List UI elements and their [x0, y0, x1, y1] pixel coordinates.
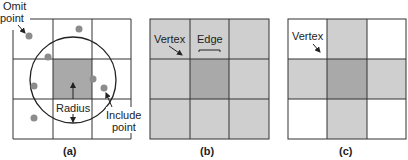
- point: [90, 76, 97, 83]
- include-label-line1: Include: [106, 109, 141, 121]
- center-cell: [327, 59, 367, 99]
- caption-b: (b): [200, 145, 214, 157]
- caption-c: (c): [339, 145, 353, 157]
- point: [76, 26, 83, 33]
- panel-a: Omit point Radius Include point (a): [0, 0, 146, 157]
- caption-a: (a): [63, 145, 77, 157]
- neighborhood-diagram: Omit point Radius Include point (a) Vert…: [0, 0, 408, 160]
- radius-label: Radius: [56, 102, 91, 114]
- panel-c: Vertex (c): [288, 19, 406, 157]
- vertex-label: Vertex: [292, 30, 324, 42]
- point: [31, 83, 38, 90]
- omit-label-line2: point: [0, 12, 24, 24]
- point: [45, 54, 52, 61]
- edge-label: Edge: [197, 33, 223, 45]
- point-include: [101, 85, 108, 92]
- point: [31, 115, 38, 122]
- include-label-line2: point: [112, 121, 136, 133]
- vertex-label: Vertex: [154, 33, 186, 45]
- omit-label-line1: Omit: [3, 0, 26, 12]
- panel-b: Vertex Edge (b): [150, 19, 269, 157]
- center-cell: [190, 59, 229, 99]
- point-omit: [26, 33, 33, 40]
